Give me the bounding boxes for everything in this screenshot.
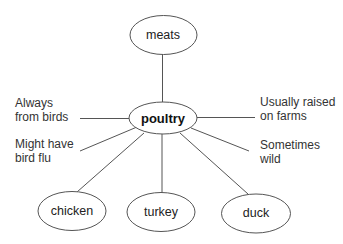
node-meats-label: meats xyxy=(146,29,180,42)
node-poultry-label: poultry xyxy=(141,112,185,125)
node-chicken-label: chicken xyxy=(51,205,93,218)
attribute-line: Might have xyxy=(15,138,74,152)
edge-poultry-sometimes-wild xyxy=(191,128,249,151)
node-turkey-label: turkey xyxy=(144,206,178,219)
attribute-line: from birds xyxy=(15,111,68,125)
edge-poultry-duck xyxy=(180,133,248,194)
attribute-usually-raised-on-farms: Usually raised on farms xyxy=(260,96,335,123)
attribute-line: Always xyxy=(15,97,68,111)
attribute-sometimes-wild: Sometimes wild xyxy=(260,139,320,166)
edge-poultry-might-have-bird-flu xyxy=(80,127,137,151)
attribute-line: bird flu xyxy=(15,152,74,166)
attribute-line: Usually raised xyxy=(260,96,335,110)
attribute-line: wild xyxy=(260,153,320,167)
attribute-line: on farms xyxy=(260,110,335,124)
edge-poultry-chicken xyxy=(77,133,144,192)
attribute-always-from-birds: Always from birds xyxy=(15,97,68,124)
attribute-line: Sometimes xyxy=(260,139,320,153)
attribute-might-have-bird-flu: Might have bird flu xyxy=(15,138,74,165)
node-duck-label: duck xyxy=(243,207,269,220)
